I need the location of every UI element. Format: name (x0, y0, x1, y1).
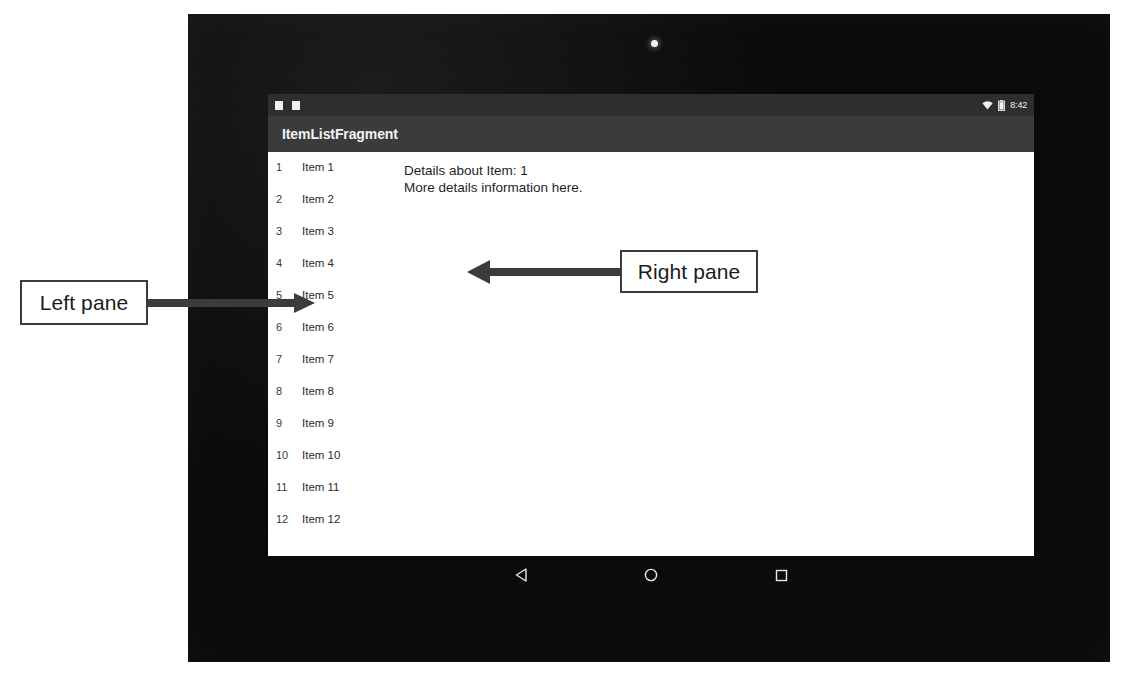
status-time: 8:42 (1010, 100, 1027, 110)
app-bar-title: ItemListFragment (282, 126, 398, 142)
notification-icon (292, 101, 300, 110)
list-item-label: Item 9 (302, 417, 334, 429)
list-item[interactable]: 6Item 6 (268, 321, 396, 353)
arrow-left-icon (466, 259, 626, 285)
callout-right-pane-label: Right pane (638, 260, 741, 284)
home-circle-icon (644, 568, 658, 582)
status-bar: 8:42 (268, 94, 1034, 116)
recents-square-icon (775, 569, 788, 582)
list-item-index: 6 (276, 321, 302, 333)
left-pane-arrow (146, 291, 316, 315)
list-item-index: 1 (276, 161, 302, 173)
list-item[interactable]: 8Item 8 (268, 385, 396, 417)
list-item-label: Item 11 (302, 481, 340, 493)
home-button[interactable] (640, 564, 662, 586)
list-item[interactable]: 10Item 10 (268, 449, 396, 481)
list-item-label: Item 4 (302, 257, 334, 269)
android-navigation-bar (268, 556, 1034, 594)
camera-dot (651, 40, 658, 47)
back-triangle-icon (515, 568, 528, 582)
app-bar: ItemListFragment (268, 116, 1034, 152)
device-screen: 8:42 ItemListFragment 1Item 12Item 23Ite… (268, 94, 1034, 594)
arrow-right-icon (146, 291, 316, 315)
list-item-label: Item 7 (302, 353, 334, 365)
list-item-label: Item 2 (302, 193, 334, 205)
list-item-index: 4 (276, 257, 302, 269)
status-system-icons: 8:42 (982, 100, 1027, 111)
list-item[interactable]: 7Item 7 (268, 353, 396, 385)
list-item-label: Item 10 (302, 449, 340, 461)
notification-icon (275, 101, 283, 110)
list-item-index: 2 (276, 193, 302, 205)
list-item-label: Item 8 (302, 385, 334, 397)
right-pane-arrow (466, 259, 626, 285)
tablet-device: 8:42 ItemListFragment 1Item 12Item 23Ite… (188, 14, 1110, 662)
list-item-index: 3 (276, 225, 302, 237)
list-item-index: 8 (276, 385, 302, 397)
list-item[interactable]: 4Item 4 (268, 257, 396, 289)
list-item[interactable]: 12Item 12 (268, 513, 396, 545)
callout-right-pane: Right pane (620, 250, 758, 293)
right-pane-item-detail: Details about Item: 1 More details infor… (396, 152, 1034, 556)
callout-left-pane-label: Left pane (40, 291, 128, 315)
list-item[interactable]: 2Item 2 (268, 193, 396, 225)
list-item-index: 12 (276, 513, 302, 525)
battery-icon (998, 100, 1005, 111)
list-item[interactable]: 1Item 1 (268, 161, 396, 193)
list-item-label: Item 6 (302, 321, 334, 333)
list-item-label: Item 12 (302, 513, 340, 525)
list-item-index: 7 (276, 353, 302, 365)
back-button[interactable] (510, 564, 532, 586)
detail-line-primary: Details about Item: 1 (404, 162, 1034, 179)
list-item[interactable]: 11Item 11 (268, 481, 396, 513)
list-item[interactable]: 9Item 9 (268, 417, 396, 449)
list-item-index: 11 (276, 481, 302, 493)
detail-line-secondary: More details information here. (404, 179, 1034, 196)
callout-left-pane: Left pane (20, 280, 148, 325)
left-pane-item-list: 1Item 12Item 23Item 34Item 45Item 56Item… (268, 152, 396, 556)
list-item[interactable]: 3Item 3 (268, 225, 396, 257)
list-item-index: 9 (276, 417, 302, 429)
list-item-label: Item 3 (302, 225, 334, 237)
wifi-icon (982, 101, 993, 110)
list-item-label: Item 1 (302, 161, 334, 173)
status-notification-area (275, 101, 300, 110)
list-item-index: 10 (276, 449, 302, 461)
recents-button[interactable] (770, 564, 792, 586)
content-area: 1Item 12Item 23Item 34Item 45Item 56Item… (268, 152, 1034, 556)
